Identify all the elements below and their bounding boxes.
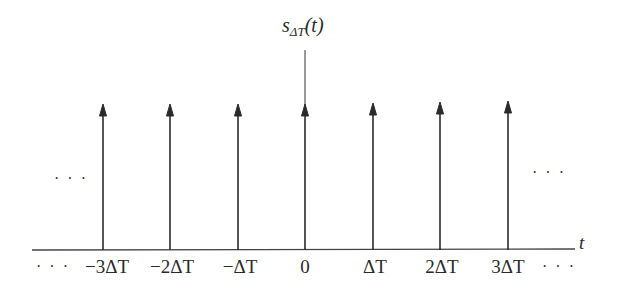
tick-label-pos2: 2ΔT — [425, 256, 458, 278]
function-subscript: ΔT — [290, 24, 305, 39]
impulse-arrow-neg2 — [167, 104, 174, 250]
impulse-train-figure: sΔT(t) t · · · · · · · · · · · · −3ΔT −2… — [0, 0, 623, 289]
tick-label-pos1: ΔT — [363, 256, 387, 278]
impulse-arrow-pos1 — [370, 103, 377, 250]
impulse-arrows — [100, 101, 512, 250]
tick-label-neg2: −2ΔT — [150, 256, 194, 278]
function-base: s — [282, 14, 290, 36]
tick-label-neg1: −ΔT — [223, 256, 258, 278]
ellipsis-left-mid: · · · — [54, 170, 88, 188]
impulse-arrow-pos3 — [505, 101, 512, 250]
function-title: sΔT(t) — [282, 14, 324, 40]
function-argument: (t) — [305, 14, 324, 36]
tick-label-neg3: −3ΔT — [85, 256, 129, 278]
ellipsis-right-axis: · · · — [542, 258, 576, 276]
impulse-arrow-neg1 — [235, 104, 242, 250]
impulse-train-plot — [0, 0, 623, 289]
tick-label-pos3: 3ΔT — [491, 256, 524, 278]
t-axis-line — [32, 249, 575, 250]
impulse-arrow-pos2 — [437, 102, 444, 250]
impulse-arrow-neg3 — [100, 104, 107, 250]
impulse-arrow-0 — [302, 104, 309, 250]
ellipsis-right-mid: · · · — [532, 164, 566, 182]
t-axis-label: t — [579, 232, 584, 254]
ellipsis-left-axis: · · · — [36, 258, 70, 276]
tick-label-0: 0 — [300, 256, 310, 278]
